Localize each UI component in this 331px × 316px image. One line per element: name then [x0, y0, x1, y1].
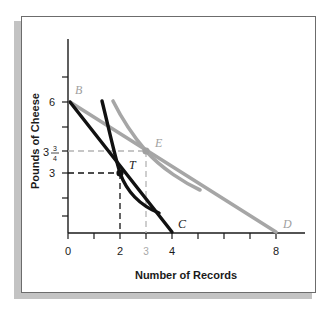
- x-axis-ticks: [68, 233, 276, 239]
- point-T-dot: [116, 169, 123, 176]
- point-label-E: E: [154, 136, 163, 150]
- y-tick-label-3: 3: [49, 167, 55, 179]
- point-E-dot: [142, 147, 149, 154]
- x-tick-label-2: 2: [117, 245, 123, 257]
- y-tick-label-frac-denominator: 4: [53, 155, 57, 162]
- point-labels-group: B T E C D: [75, 83, 292, 231]
- axes-group: [68, 39, 305, 233]
- y-tick-label-3-whole: 3: [43, 146, 49, 158]
- figure-root: 6 3 3 4 3 0 2: [0, 0, 331, 316]
- point-label-T: T: [129, 158, 137, 172]
- x-tick-label-4: 4: [169, 245, 175, 257]
- point-label-D: D: [282, 217, 292, 231]
- figure-frame: 6 3 3 4 3 0 2: [21, 16, 316, 293]
- x-tick-labels: 0 2 3 4 8: [65, 245, 279, 257]
- y-axis-ticks: [62, 77, 68, 216]
- y-tick-labels: 6 3 3 4 3: [43, 96, 59, 179]
- x-tick-label-8: 8: [273, 245, 279, 257]
- indifference-curve-chart: 6 3 3 4 3 0 2: [22, 17, 315, 292]
- x-tick-label-0: 0: [65, 245, 71, 257]
- x-axis-title: Number of Records: [135, 269, 237, 281]
- y-axis-title: Pounds of Cheese: [29, 93, 41, 189]
- x-tick-label-3: 3: [143, 246, 149, 257]
- point-label-C: C: [178, 217, 187, 231]
- y-tick-label-6: 6: [49, 96, 55, 108]
- y-tick-label-frac-numerator: 3: [53, 145, 57, 152]
- point-label-B: B: [75, 83, 83, 97]
- budget-line-BD: [70, 102, 276, 232]
